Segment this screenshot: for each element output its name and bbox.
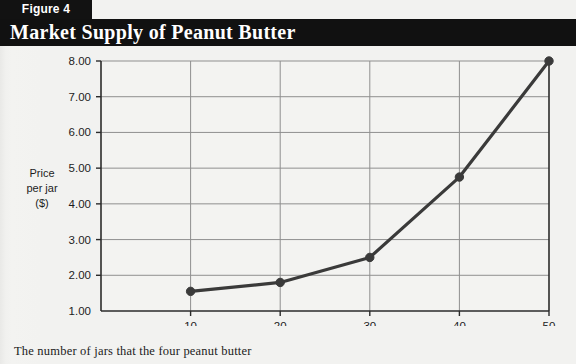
figure-page: Figure 4 Market Supply of Peanut Butter … [0, 0, 576, 364]
y-tick-label: 2.00 [69, 269, 91, 281]
y-axis-title: Priceper jar($) [26, 167, 58, 209]
supply-curve-chart: 1.002.003.004.005.006.007.008.00 1020304… [0, 46, 576, 326]
y-tick-label: 3.00 [69, 234, 91, 246]
y-axis-ticks: 1.002.003.004.005.006.007.008.00 [69, 55, 101, 317]
data-point-marker [276, 278, 284, 286]
y-tick-label: 1.00 [69, 305, 91, 317]
x-tick-label: 30 [363, 320, 376, 326]
data-point-marker [186, 287, 194, 295]
figure-title: Market Supply of Peanut Butter [10, 19, 296, 46]
data-point-marker [455, 173, 463, 181]
x-tick-label: 20 [274, 320, 287, 326]
y-axis-title-line: Price [29, 167, 54, 179]
data-point-marker [545, 57, 553, 65]
y-tick-label: 8.00 [69, 55, 91, 67]
data-point-marker [366, 253, 374, 261]
x-tick-label: 10 [184, 320, 197, 326]
figure-number-tab: Figure 4 [0, 0, 92, 19]
x-tick-label: 50 [543, 320, 556, 326]
x-axis-ticks: 1020304050 [184, 311, 555, 326]
y-tick-label: 4.00 [69, 198, 91, 210]
x-tick-label: 40 [453, 320, 466, 326]
plot-background [101, 61, 549, 311]
y-axis-title-line: per jar [26, 182, 58, 194]
figure-caption: The number of jars that the four peanut … [14, 344, 554, 359]
y-axis-title-line: ($) [35, 197, 48, 209]
chart-canvas: 1.002.003.004.005.006.007.008.00 1020304… [0, 46, 576, 326]
y-tick-label: 6.00 [69, 126, 91, 138]
y-tick-label: 5.00 [69, 162, 91, 174]
y-tick-label: 7.00 [69, 91, 91, 103]
